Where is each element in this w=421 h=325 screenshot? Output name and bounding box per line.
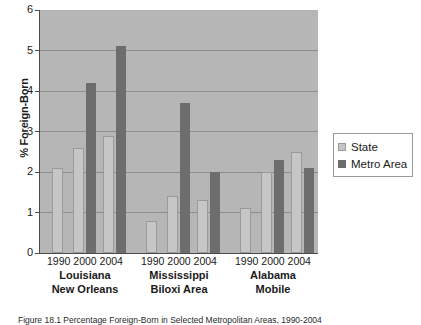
bar-new-orleans-metro-2000	[86, 83, 96, 253]
bar-alabama-state-2004	[291, 152, 302, 253]
x-group-state-1: Louisiana	[40, 268, 130, 282]
x-group-state-3: Alabama	[228, 268, 318, 282]
bar-louisiana-state-1990	[52, 168, 63, 253]
x-axis-labels: 1990 2000 2004 Louisiana New Orleans 199…	[0, 255, 421, 315]
legend-item-metro-area: Metro Area	[338, 155, 407, 172]
bar-louisiana-state-2004	[103, 136, 114, 253]
y-tick-label-1: 1	[0, 207, 33, 218]
y-tick-label-2: 2	[0, 166, 33, 177]
x-group-louisiana: 1990 2000 2004 Louisiana New Orleans	[40, 255, 130, 296]
y-tick-label-6: 6	[0, 4, 33, 15]
y-tick-label-5: 5	[0, 45, 33, 56]
bar-mobile-metro-2000	[274, 160, 284, 253]
legend-label-state: State	[351, 141, 378, 153]
bar-new-orleans-metro-2004	[116, 46, 126, 253]
x-group-alabama: 1990 2000 2004 Alabama Mobile	[228, 255, 318, 296]
bar-louisiana-state-2000	[73, 148, 84, 253]
bar-mississippi-state-1990	[146, 221, 157, 253]
x-group-metro-1: New Orleans	[40, 282, 130, 296]
bar-mississippi-state-2004	[197, 200, 208, 253]
legend-swatch-state-icon	[338, 143, 346, 151]
bar-alabama-state-1990	[240, 208, 251, 253]
gridline-3	[40, 131, 318, 132]
gridline-5	[40, 50, 318, 51]
figure-caption: Figure 18.1 Percentage Foreign-Born in S…	[18, 316, 418, 325]
x-group-years-2: 1990 2000 2004	[134, 255, 224, 268]
legend-swatch-metro-icon	[338, 160, 346, 168]
x-group-years-3: 1990 2000 2004	[228, 255, 318, 268]
legend-item-state: State	[338, 138, 407, 155]
bar-alabama-state-2000	[261, 172, 272, 253]
bar-biloxi-metro-2004	[210, 172, 220, 253]
bar-mississippi-state-2000	[167, 196, 178, 253]
chart-legend: State Metro Area	[333, 133, 413, 177]
bar-mobile-metro-2004	[304, 168, 314, 253]
x-group-years-1: 1990 2000 2004	[40, 255, 130, 268]
x-group-metro-2: Biloxi Area	[134, 282, 224, 296]
legend-label-metro-area: Metro Area	[351, 158, 407, 170]
x-group-mississippi: 1990 2000 2004 Mississippi Biloxi Area	[134, 255, 224, 296]
plot-area	[40, 10, 318, 253]
y-tick-label-3: 3	[0, 126, 33, 137]
x-group-state-2: Mississippi	[134, 268, 224, 282]
gridline-4	[40, 91, 318, 92]
y-tick-label-4: 4	[0, 85, 33, 96]
x-group-metro-3: Mobile	[228, 282, 318, 296]
x-axis-line	[40, 253, 318, 254]
bar-biloxi-metro-2000	[180, 103, 190, 253]
